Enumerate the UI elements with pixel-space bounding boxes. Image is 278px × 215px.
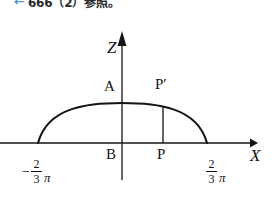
foot-label: P <box>157 147 165 162</box>
apex-label: A <box>104 79 115 94</box>
left-tick-sign: − <box>22 165 30 179</box>
z-axis-label: Z <box>107 39 116 56</box>
origin-label: B <box>106 147 116 162</box>
left-tick-numerator: 2 <box>32 158 40 170</box>
right-tick-label: 2 3 π <box>206 158 226 185</box>
left-tick-label: − 2 3 π <box>22 158 50 185</box>
right-tick-denominator: 3 <box>208 173 216 185</box>
z-axis-arrowhead <box>118 31 127 46</box>
right-tick-fraction: 2 3 <box>206 158 217 185</box>
left-tick-fraction: 2 3 <box>31 158 42 185</box>
curve-point-label: P′ <box>155 77 167 92</box>
right-tick-pi-symbol: π <box>219 171 226 185</box>
left-tick-pi-symbol: π <box>44 171 51 185</box>
right-tick-numerator: 2 <box>208 158 216 170</box>
figure-canvas: ← 666（2）参照。 Z X A P′ B P − 2 3 π 2 <box>0 0 278 215</box>
x-axis-label: X <box>250 147 260 164</box>
left-tick-denominator: 3 <box>32 173 40 185</box>
